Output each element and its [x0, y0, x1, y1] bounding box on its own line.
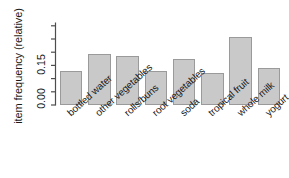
bar-chart-figure: item frequency (relative) 0.00 0.15 bott… — [0, 0, 289, 178]
